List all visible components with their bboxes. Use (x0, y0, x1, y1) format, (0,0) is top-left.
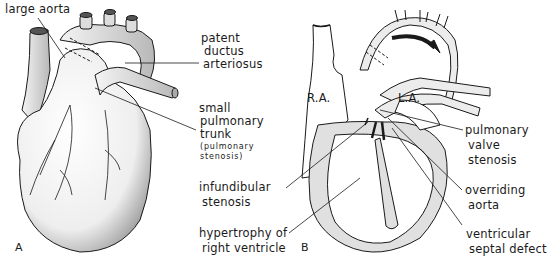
label-right-atrium: R.A. (307, 91, 330, 105)
label-ventricular-septal-defect-line2: septal defect (469, 242, 547, 256)
label-hypertrophy-line1: hypertrophy of (199, 226, 287, 240)
heart-section-illustration (286, 10, 490, 252)
label-infundibular-stenosis-line2: stenosis (202, 195, 251, 209)
label-overriding-aorta-line1: overriding (465, 183, 525, 197)
label-pulmonary-stenosis-paren-line2: stenosis) (200, 152, 243, 162)
label-large-aorta: large aorta (5, 2, 70, 16)
label-left-atrium: L.A. (398, 91, 420, 105)
label-pulmonary-valve-stenosis-line3: stenosis (468, 153, 517, 167)
label-hypertrophy-line2: right ventricle (202, 241, 286, 255)
panel-letter-b: B (301, 241, 309, 255)
label-small-pulmonary-line1: small (199, 101, 231, 115)
panel-letter-a: A (15, 241, 23, 255)
label-overriding-aorta-line2: aorta (468, 198, 499, 212)
label-pulmonary-stenosis-paren-line1: (pulmonary (200, 142, 254, 152)
label-small-pulmonary-line3: trunk (200, 127, 231, 141)
label-patent-ductus-line3: arteriosus (203, 57, 263, 71)
heart-external-illustration (18, 10, 200, 253)
label-patent-ductus-line2: ductus (204, 44, 244, 58)
label-patent-ductus-line1: patent (201, 31, 240, 45)
label-pulmonary-valve-stenosis-line1: pulmonary (465, 123, 529, 137)
label-pulmonary-valve-stenosis-line2: valve (468, 138, 500, 152)
label-small-pulmonary-line2: pulmonary (200, 114, 264, 128)
label-ventricular-septal-defect-line1: ventricular (466, 227, 530, 241)
label-infundibular-stenosis-line1: infundibular (199, 180, 271, 194)
